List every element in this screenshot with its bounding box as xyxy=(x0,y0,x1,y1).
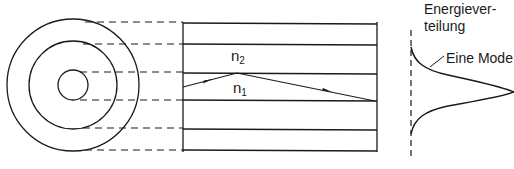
light-ray xyxy=(183,73,375,101)
core-circle xyxy=(58,70,88,100)
cladding-inner-circle xyxy=(29,41,117,129)
fiber-longitudinal-section xyxy=(183,22,377,152)
projection-dashed-lines xyxy=(80,22,183,150)
energy-title-line1: Energiever- xyxy=(424,1,496,18)
energy-distribution-title: Energiever- teilung xyxy=(424,1,496,35)
single-mode-label: Eine Mode xyxy=(446,51,513,65)
n2-label: n2 xyxy=(231,48,245,66)
n1-label: n1 xyxy=(233,80,247,98)
mode-label-leader xyxy=(430,56,444,67)
energy-title-line2: teilung xyxy=(424,18,496,35)
cladding-outer-circle xyxy=(7,19,139,151)
